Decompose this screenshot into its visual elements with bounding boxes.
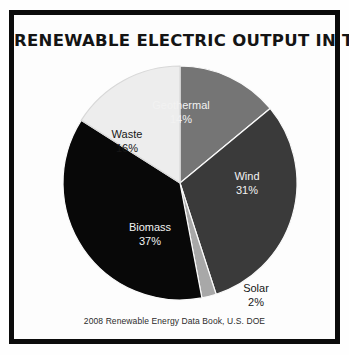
poster-inner: RENEWABLE ELECTRIC OUTPUT IN THE U.S. Ge… xyxy=(14,15,335,339)
pie-chart-svg xyxy=(14,15,335,339)
pie-slices xyxy=(63,66,297,300)
poster: RENEWABLE ELECTRIC OUTPUT IN THE U.S. Ge… xyxy=(0,0,349,355)
source-caption: 2008 Renewable Energy Data Book, U.S. DO… xyxy=(14,316,335,326)
pie-chart: Geothermal 14% Wind 31% Solar 2% Biomass… xyxy=(14,15,335,339)
poster-frame: RENEWABLE ELECTRIC OUTPUT IN THE U.S. Ge… xyxy=(9,10,340,344)
